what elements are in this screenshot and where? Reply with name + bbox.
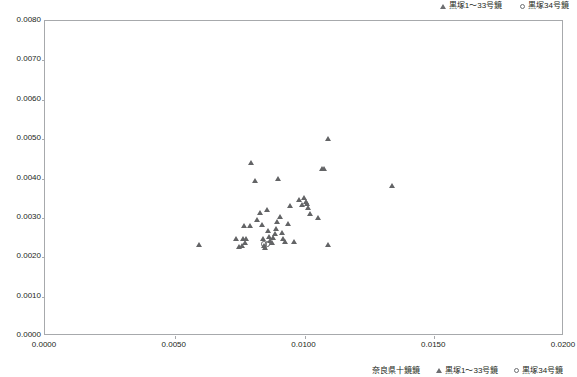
legend-entry: 黒塚1～33号鏡: [440, 2, 502, 10]
y-tick-label: 0.0020: [17, 252, 41, 260]
x-tick-label: 0.0000: [32, 341, 56, 349]
y-tick-mark: [42, 297, 45, 298]
chart-legend: 黒塚1～33号鏡黒塚34号鏡: [440, 2, 569, 10]
data-point: [389, 183, 395, 188]
legend-circle-icon: [520, 4, 525, 9]
data-point: [264, 207, 270, 212]
data-point: [260, 236, 266, 241]
data-point: [275, 176, 281, 181]
legend-label: 黒塚34号鏡: [528, 2, 569, 10]
data-point: [305, 205, 311, 210]
data-point: [252, 178, 258, 183]
legend-label: 奈良県十鏡鏡: [372, 367, 420, 375]
y-tick-label: 0.0000: [17, 331, 41, 339]
y-tick-mark: [42, 139, 45, 140]
chart-legend-secondary: 奈良県十鏡鏡黒塚1～33号鏡黒塚34号鏡: [372, 364, 563, 377]
legend-label: 黒塚1～33号鏡: [449, 2, 502, 10]
data-point: [277, 214, 283, 219]
y-tick-label: 0.0040: [17, 174, 41, 182]
data-point: [248, 160, 254, 165]
y-tick-mark: [42, 100, 45, 101]
data-point: [243, 236, 249, 241]
x-tick-mark: [175, 336, 176, 339]
data-point: [291, 239, 297, 244]
data-point: [259, 222, 265, 227]
legend-label: 黒塚34号鏡: [522, 367, 563, 375]
y-tick-mark: [42, 179, 45, 180]
legend-entry: 黒塚34号鏡: [520, 2, 569, 10]
data-point: [315, 215, 321, 220]
data-point: [257, 210, 263, 215]
y-tick-label: 0.0070: [17, 55, 41, 63]
y-tick-label: 0.0060: [17, 95, 41, 103]
data-point: [196, 242, 202, 247]
legend-entry: 黒塚34号鏡: [514, 367, 563, 375]
data-point: [265, 241, 271, 247]
x-tick-label: 0.0200: [551, 341, 575, 349]
data-point: [274, 219, 280, 224]
x-tick-label: 0.0100: [291, 341, 315, 349]
y-tick-mark: [42, 60, 45, 61]
y-axis-labels: 0.00000.00100.00200.00300.00400.00500.00…: [0, 0, 41, 377]
data-point: [279, 230, 285, 235]
data-point: [285, 221, 291, 226]
y-tick-label: 0.0010: [17, 292, 41, 300]
x-tick-label: 0.0150: [421, 341, 445, 349]
plot-area: [45, 21, 562, 334]
legend-triangle-icon: [440, 4, 446, 9]
y-tick-label: 0.0080: [17, 16, 41, 24]
legend-entry: 黒塚1～33号鏡: [436, 367, 498, 375]
y-tick-mark: [42, 257, 45, 258]
data-point: [325, 136, 331, 141]
data-point: [325, 242, 331, 247]
y-tick-mark: [42, 218, 45, 219]
data-point: [272, 231, 278, 236]
legend-label: 黒塚1～33号鏡: [445, 367, 498, 375]
data-point: [321, 166, 327, 171]
data-point: [247, 223, 253, 228]
data-point: [282, 239, 288, 244]
data-point: [307, 211, 313, 216]
plot-frame: [44, 20, 563, 335]
x-tick-label: 0.0050: [162, 341, 186, 349]
data-point: [233, 236, 239, 241]
x-axis-labels: 0.00000.00500.01000.01500.0200: [0, 341, 577, 355]
y-tick-label: 0.0050: [17, 134, 41, 142]
data-point: [287, 203, 293, 208]
x-tick-mark: [434, 336, 435, 339]
legend-circle-icon: [514, 368, 519, 373]
data-point: [273, 226, 279, 231]
legend-entry: 奈良県十鏡鏡: [372, 367, 420, 375]
x-tick-mark: [305, 336, 306, 339]
scatter-chart: 黒塚1～33号鏡黒塚34号鏡 0.00000.00100.00200.00300…: [0, 0, 577, 377]
y-tick-label: 0.0030: [17, 213, 41, 221]
legend-triangle-icon: [436, 368, 442, 373]
data-point: [265, 228, 271, 233]
